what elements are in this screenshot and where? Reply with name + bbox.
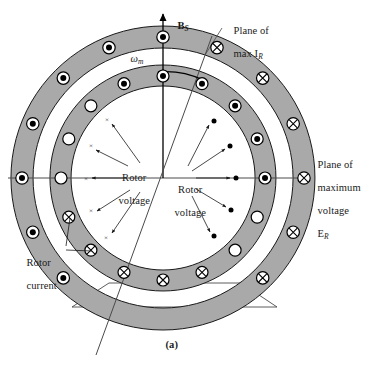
stator-conductor-dot xyxy=(57,272,69,284)
rotor-conductor-dot xyxy=(157,70,169,82)
voltage-x-mark: × xyxy=(89,142,93,150)
stator-conductor-cross xyxy=(298,172,310,184)
plane-max-ir-label: Plane of max IR xyxy=(228,13,269,60)
stator-conductor-dot xyxy=(27,226,39,238)
plane-max-voltage-subscript: R xyxy=(324,232,329,241)
rotor-voltage-left-line2: voltage xyxy=(118,195,150,206)
voltage-dot-mark xyxy=(228,144,233,149)
figure-caption-text: (a) xyxy=(165,339,178,350)
rotor-voltage-left-label: Rotor voltage xyxy=(113,160,150,206)
rotor-voltage-right-line1: Rotor xyxy=(178,184,202,195)
stator-conductor-cross xyxy=(287,118,299,130)
omega-symbol: ω xyxy=(130,53,138,64)
voltage-x-mark: × xyxy=(84,175,88,183)
rotor-conductor-cross xyxy=(118,266,130,278)
plane-max-voltage-line2: maximum xyxy=(317,182,360,193)
rotor-conductor-open xyxy=(85,100,97,112)
rotor-conductor-dot xyxy=(259,172,271,184)
rotor-conductor-dot xyxy=(251,133,263,145)
rotor-voltage-right-line2: voltage xyxy=(174,207,206,218)
stator-conductor-cross xyxy=(287,226,299,238)
rotor-conductor-cross xyxy=(63,211,75,223)
rotor-voltage-right-label: Rotor voltage xyxy=(169,172,206,218)
rotor-conductor-open xyxy=(229,244,241,256)
plane-max-ir-line1: Plane of xyxy=(233,25,269,36)
voltage-dot-mark xyxy=(234,176,239,181)
plane-max-ir-line2: max I xyxy=(233,48,258,59)
plane-max-voltage-line4: E xyxy=(317,228,324,239)
voltage-dot-mark xyxy=(212,234,217,239)
voltage-dot-mark xyxy=(212,119,217,124)
omega-subscript: m xyxy=(138,57,144,66)
voltage-x-mark: × xyxy=(104,234,108,242)
plane-max-voltage-line1: Plane of xyxy=(317,159,353,170)
rotor-conductor-cross xyxy=(196,266,208,278)
stator-conductor-dot xyxy=(57,72,69,84)
plane-max-voltage-label: Plane of maximum voltage ER xyxy=(312,147,361,240)
rotor-voltage-left-line1: Rotor xyxy=(122,172,146,183)
plane-max-ir-subscript: R xyxy=(258,52,263,61)
plane-max-voltage-line3: voltage xyxy=(317,205,349,216)
figure-caption: (a) xyxy=(160,327,178,350)
stator-conductor-cross xyxy=(257,272,269,284)
rotor-voltage-markers-left: × × × × × xyxy=(84,116,109,242)
stator-conductor-cross xyxy=(211,41,223,53)
rotor-conductor-dot xyxy=(229,100,241,112)
rotor-current-line2: current xyxy=(26,280,56,291)
flux-axis-label: BS xyxy=(172,8,189,32)
stator-conductor-dot xyxy=(103,41,115,53)
flux-axis-subscript: S xyxy=(185,24,189,33)
rotor-conductor-cross xyxy=(157,274,169,286)
rotor-conductor-dot xyxy=(196,78,208,90)
stator-conductor-dot xyxy=(157,31,169,43)
rotor-conductor-cross xyxy=(85,244,97,256)
voltage-x-mark: × xyxy=(105,116,109,124)
voltage-dot-mark xyxy=(229,208,234,213)
rotor-conductor-open xyxy=(63,133,75,145)
rotor-conductor-open xyxy=(55,172,67,184)
stator-conductor-dot xyxy=(16,172,28,184)
stator-conductor-dot xyxy=(27,118,39,130)
omega-label: ωm xyxy=(125,41,144,65)
rotor-current-line1: Rotor xyxy=(26,257,50,268)
voltage-x-mark: × xyxy=(89,207,93,215)
rotor-conductor-dot xyxy=(118,78,130,90)
rotor-conductor-open xyxy=(251,211,263,223)
flux-axis-symbol: B xyxy=(177,20,184,31)
stator-conductor-cross xyxy=(257,72,269,84)
rotor-current-label: Rotor current xyxy=(21,245,57,291)
